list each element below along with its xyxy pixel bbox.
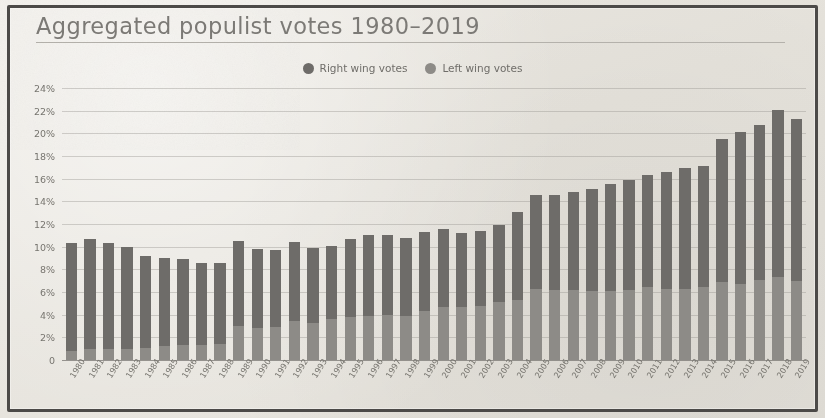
bar-segment-left-wing[interactable] xyxy=(363,316,374,360)
bar-slot[interactable]: 1994 xyxy=(322,88,341,360)
bar-segment-right-wing[interactable] xyxy=(121,247,132,349)
bar-segment-left-wing[interactable] xyxy=(307,323,318,360)
bar-segment-left-wing[interactable] xyxy=(270,327,281,360)
stacked-bar[interactable] xyxy=(679,168,690,360)
bar-slot[interactable]: 2003 xyxy=(490,88,509,360)
bar-segment-right-wing[interactable] xyxy=(791,119,802,281)
stacked-bar[interactable] xyxy=(326,246,337,360)
bar-segment-right-wing[interactable] xyxy=(716,139,727,282)
bar-slot[interactable]: 2013 xyxy=(676,88,695,360)
bar-segment-right-wing[interactable] xyxy=(159,258,170,346)
bar-segment-right-wing[interactable] xyxy=(103,243,114,348)
stacked-bar[interactable] xyxy=(623,180,634,360)
bar-slot[interactable]: 1998 xyxy=(397,88,416,360)
bar-slot[interactable]: 2016 xyxy=(731,88,750,360)
bar-slot[interactable]: 1992 xyxy=(285,88,304,360)
stacked-bar[interactable] xyxy=(196,263,207,360)
bar-segment-left-wing[interactable] xyxy=(661,289,672,360)
stacked-bar[interactable] xyxy=(103,243,114,360)
bar-segment-right-wing[interactable] xyxy=(270,250,281,327)
bar-segment-right-wing[interactable] xyxy=(140,256,151,348)
bar-slot[interactable]: 2011 xyxy=(638,88,657,360)
stacked-bar[interactable] xyxy=(84,239,95,360)
bar-segment-right-wing[interactable] xyxy=(363,235,374,315)
bar-segment-left-wing[interactable] xyxy=(103,349,114,360)
stacked-bar[interactable] xyxy=(419,232,430,360)
bar-slot[interactable]: 2001 xyxy=(452,88,471,360)
bar-slot[interactable]: 1999 xyxy=(415,88,434,360)
stacked-bar[interactable] xyxy=(698,166,709,360)
legend-item[interactable]: Left wing votes xyxy=(425,62,522,74)
legend-item[interactable]: Right wing votes xyxy=(303,62,408,74)
bar-segment-left-wing[interactable] xyxy=(512,300,523,360)
bar-slot[interactable]: 1985 xyxy=(155,88,174,360)
stacked-bar[interactable] xyxy=(586,189,597,360)
stacked-bar[interactable] xyxy=(549,195,560,360)
bar-segment-right-wing[interactable] xyxy=(400,238,411,316)
bar-segment-right-wing[interactable] xyxy=(698,166,709,287)
bar-segment-right-wing[interactable] xyxy=(456,233,467,307)
bar-slot[interactable]: 1995 xyxy=(341,88,360,360)
bar-segment-left-wing[interactable] xyxy=(196,345,207,360)
stacked-bar[interactable] xyxy=(512,212,523,360)
bar-segment-right-wing[interactable] xyxy=(345,239,356,317)
stacked-bar[interactable] xyxy=(493,225,504,360)
bar-slot[interactable]: 1996 xyxy=(360,88,379,360)
stacked-bar[interactable] xyxy=(735,132,746,360)
stacked-bar[interactable] xyxy=(642,175,653,360)
bar-segment-left-wing[interactable] xyxy=(605,291,616,360)
bar-segment-right-wing[interactable] xyxy=(252,249,263,328)
bar-segment-left-wing[interactable] xyxy=(159,346,170,360)
stacked-bar[interactable] xyxy=(252,249,263,360)
stacked-bar[interactable] xyxy=(568,192,579,360)
bar-slot[interactable]: 2002 xyxy=(471,88,490,360)
bar-slot[interactable]: 2012 xyxy=(657,88,676,360)
bar-segment-right-wing[interactable] xyxy=(214,263,225,345)
bar-slot[interactable]: 2000 xyxy=(434,88,453,360)
bar-segment-left-wing[interactable] xyxy=(568,290,579,360)
stacked-bar[interactable] xyxy=(177,259,188,360)
bar-slot[interactable]: 1982 xyxy=(99,88,118,360)
stacked-bar[interactable] xyxy=(791,119,802,360)
bar-segment-left-wing[interactable] xyxy=(791,281,802,360)
bar-segment-right-wing[interactable] xyxy=(623,180,634,290)
stacked-bar[interactable] xyxy=(140,256,151,360)
bar-segment-left-wing[interactable] xyxy=(400,316,411,360)
bar-segment-right-wing[interactable] xyxy=(493,225,504,302)
bar-segment-right-wing[interactable] xyxy=(735,132,746,284)
bar-slot[interactable]: 2010 xyxy=(620,88,639,360)
bar-segment-left-wing[interactable] xyxy=(475,306,486,360)
bar-segment-left-wing[interactable] xyxy=(252,328,263,360)
bar-segment-left-wing[interactable] xyxy=(754,280,765,360)
stacked-bar[interactable] xyxy=(233,241,244,360)
bar-segment-right-wing[interactable] xyxy=(438,229,449,307)
bar-segment-left-wing[interactable] xyxy=(530,289,541,360)
bar-slot[interactable]: 1991 xyxy=(267,88,286,360)
bar-segment-right-wing[interactable] xyxy=(530,195,541,289)
bar-segment-left-wing[interactable] xyxy=(233,326,244,360)
bar-segment-left-wing[interactable] xyxy=(121,349,132,360)
bar-slot[interactable]: 1987 xyxy=(192,88,211,360)
bar-segment-right-wing[interactable] xyxy=(419,232,430,311)
bar-slot[interactable]: 1983 xyxy=(118,88,137,360)
bar-slot[interactable]: 2014 xyxy=(694,88,713,360)
stacked-bar[interactable] xyxy=(66,243,77,360)
stacked-bar[interactable] xyxy=(214,263,225,360)
bar-segment-left-wing[interactable] xyxy=(140,348,151,360)
bar-segment-right-wing[interactable] xyxy=(549,195,560,290)
bar-slot[interactable]: 2007 xyxy=(564,88,583,360)
bar-segment-right-wing[interactable] xyxy=(84,239,95,349)
bar-segment-right-wing[interactable] xyxy=(233,241,244,326)
bar-slot[interactable]: 2006 xyxy=(545,88,564,360)
bar-slot[interactable]: 1990 xyxy=(248,88,267,360)
bar-slot[interactable]: 2018 xyxy=(769,88,788,360)
bar-segment-left-wing[interactable] xyxy=(623,290,634,360)
bar-segment-left-wing[interactable] xyxy=(177,345,188,360)
bar-slot[interactable]: 1980 xyxy=(62,88,81,360)
bar-segment-right-wing[interactable] xyxy=(289,242,300,321)
bar-slot[interactable]: 2008 xyxy=(583,88,602,360)
bar-slot[interactable]: 1988 xyxy=(211,88,230,360)
stacked-bar[interactable] xyxy=(400,238,411,360)
bar-segment-left-wing[interactable] xyxy=(698,287,709,360)
bar-segment-left-wing[interactable] xyxy=(493,302,504,360)
